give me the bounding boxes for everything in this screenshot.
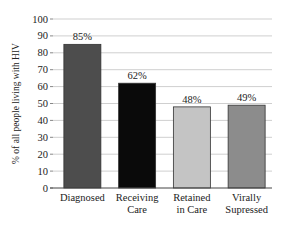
y-tick-label: 20 — [38, 149, 49, 160]
data-label: 62% — [128, 70, 148, 81]
bar-2 — [173, 107, 210, 188]
x-category-label: Virally — [232, 192, 262, 203]
x-category-label: Diagnosed — [60, 192, 106, 203]
x-category-label: Supressed — [225, 204, 268, 215]
y-tick-label: 70 — [38, 64, 49, 75]
x-category-label: Retained — [173, 192, 211, 203]
data-label: 48% — [182, 94, 202, 105]
y-tick-label: 30 — [38, 132, 49, 143]
data-label: 49% — [237, 92, 257, 103]
bar-chart: 0102030405060708090100 85%62%48%49% Diag… — [0, 0, 283, 230]
y-tick-label: 100 — [32, 14, 48, 25]
x-category-label: Care — [127, 204, 147, 215]
bar-0 — [64, 44, 101, 188]
bars — [64, 44, 265, 188]
x-category-label: in Care — [177, 204, 208, 215]
y-tick-label: 80 — [38, 47, 49, 58]
y-tick-label: 90 — [38, 30, 49, 41]
bar-3 — [228, 105, 265, 188]
x-category-label: Receiving — [116, 192, 159, 203]
y-tick-label: 0 — [43, 183, 48, 194]
data-label: 85% — [73, 31, 93, 42]
y-tick-label: 10 — [38, 166, 49, 177]
bar-1 — [119, 83, 156, 188]
y-tick-label: 40 — [38, 115, 49, 126]
y-axis-ticks: 0102030405060708090100 — [32, 14, 53, 194]
y-axis-label: % of all people living with HIV — [11, 43, 21, 164]
x-axis-categories: DiagnosedReceivingCareRetainedin CareVir… — [60, 192, 269, 215]
y-tick-label: 50 — [38, 98, 49, 109]
y-tick-label: 60 — [38, 81, 49, 92]
